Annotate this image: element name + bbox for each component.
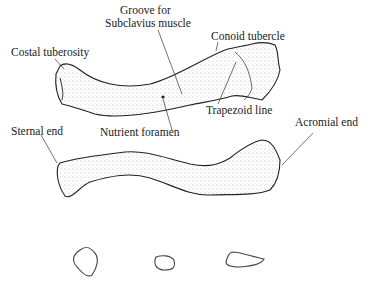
label-costal-tuberosity: Costal tuberosity (11, 46, 89, 58)
label-acromial-end: Acromial end (295, 116, 358, 128)
cross-sections (74, 247, 264, 276)
label-groove-line2: Subclavius muscle (105, 17, 191, 29)
clavicle-bottom-view (57, 140, 280, 197)
label-groove-line1: Groove for (120, 4, 171, 16)
label-trapezoid-line: Trapezoid line (206, 104, 272, 116)
clavicle-diagram (0, 0, 370, 288)
label-conoid-tubercle: Conoid tubercle (211, 30, 285, 42)
label-sternal-end: Sternal end (11, 125, 63, 137)
label-nutrient-foramen: Nutrient foramen (100, 126, 180, 138)
